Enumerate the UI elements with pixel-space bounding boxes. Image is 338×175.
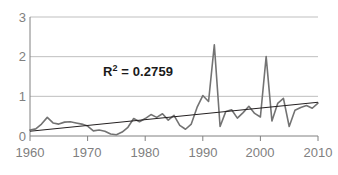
x-tick-label-1980: 1980 [122,146,168,159]
data-series-line [30,45,318,135]
x-axis-ticks [30,136,318,141]
r2-value: = 0.2759 [118,64,173,79]
x-tick-label-1960: 1960 [7,146,53,159]
y-tick-label-2: 2 [6,50,26,63]
x-tick-label-1970: 1970 [64,146,110,159]
gridlines [30,17,318,136]
y-tick-label-0: 0 [6,130,26,143]
x-tick-label-2010: 2010 [295,146,338,159]
y-tick-label-3: 3 [6,11,26,24]
x-tick-label-2000: 2000 [237,146,283,159]
r2-base: R [103,64,113,79]
x-tick-label-1990: 1990 [180,146,226,159]
r-squared-annotation: R2 = 0.2759 [103,64,173,79]
trendline [30,102,318,131]
y-tick-label-1: 1 [6,90,26,103]
chart-container: 3 2 1 0 1960 1970 1980 1990 2000 2010 R2… [0,0,338,175]
